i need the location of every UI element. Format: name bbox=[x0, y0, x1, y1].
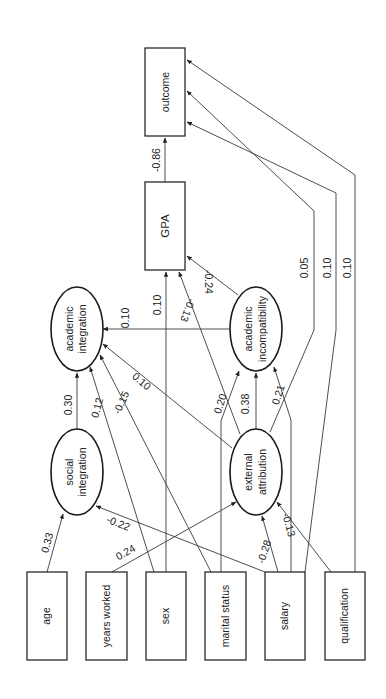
coef-ms-acint: -0.15 bbox=[110, 389, 131, 416]
node-outcome: outcome bbox=[145, 48, 185, 136]
coef-socint-acint: 0.30 bbox=[62, 395, 74, 416]
node-gpa: GPA bbox=[145, 182, 185, 270]
coef-gpa-outcome: -0.86 bbox=[150, 148, 162, 172]
node-label: social bbox=[63, 459, 75, 486]
coef-extattr-outcome: 0.05 bbox=[298, 258, 310, 279]
edge-yw-extattr bbox=[112, 502, 236, 572]
coef-salary-socint: -0.22 bbox=[105, 513, 132, 533]
node-marital-status: marital status bbox=[205, 572, 246, 660]
node-label: academic bbox=[63, 307, 75, 352]
node-sex: sex bbox=[146, 572, 186, 660]
edge-extattr-gpa bbox=[179, 272, 240, 434]
coef-sex-gpa: 0.10 bbox=[151, 295, 163, 316]
node-social-integration: social integration bbox=[51, 429, 103, 515]
coef-acinc-acint: 0.10 bbox=[119, 308, 131, 329]
coef-ms-acinc: 0.20 bbox=[211, 392, 229, 415]
node-label: age bbox=[40, 607, 52, 625]
coef-qual-extattr: -0.13 bbox=[280, 512, 298, 538]
coef-extattr-gpa: -0.13 bbox=[178, 297, 198, 324]
node-label: marital status bbox=[219, 585, 231, 647]
node-salary: salary bbox=[265, 572, 305, 660]
node-academic-incompatibility: academic incompatibility bbox=[230, 287, 282, 371]
coef-qual-outcome: 0.10 bbox=[341, 258, 353, 279]
node-label: integration bbox=[76, 447, 88, 496]
coef-yw-extattr: 0.24 bbox=[114, 542, 138, 563]
node-label: years worked bbox=[100, 585, 112, 648]
node-label: external bbox=[242, 453, 254, 490]
node-label: sex bbox=[159, 607, 171, 624]
coef-extattr-acinc: 0.38 bbox=[239, 394, 251, 415]
node-label: qualification bbox=[338, 588, 350, 644]
coef-yw-acint: 0.12 bbox=[88, 396, 105, 419]
coef-extattr-acint: 0.10 bbox=[130, 370, 153, 392]
node-label: attribution bbox=[256, 449, 268, 495]
node-label: GPA bbox=[159, 214, 171, 238]
node-label: incompatibility bbox=[256, 295, 268, 362]
coef-acinc-gpa: -0.24 bbox=[203, 270, 215, 294]
node-label: salary bbox=[278, 601, 290, 630]
coef-salary-acinc: 0.21 bbox=[269, 383, 287, 406]
node-label: integration bbox=[76, 304, 88, 353]
path-diagram: outcome GPA academic integration academi… bbox=[0, 0, 386, 699]
coef-salary-outcome: 0.10 bbox=[321, 258, 333, 279]
node-years-worked: years worked bbox=[86, 572, 127, 660]
edge-ms-acint bbox=[100, 355, 211, 572]
edge-salary-socint bbox=[96, 506, 265, 572]
node-age: age bbox=[27, 572, 67, 660]
edge-extattr-outcome bbox=[187, 91, 314, 432]
node-label: academic bbox=[242, 307, 254, 352]
node-label: outcome bbox=[159, 72, 171, 112]
coef-salary-extattr: -0.28 bbox=[254, 538, 273, 565]
node-external-attribution: external attribution bbox=[230, 429, 282, 515]
node-academic-integration: academic integration bbox=[51, 287, 103, 371]
node-qualification: qualification bbox=[325, 572, 365, 660]
